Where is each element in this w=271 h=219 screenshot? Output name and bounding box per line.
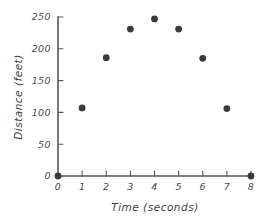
x-tick-label: 5 <box>175 181 181 192</box>
data-points <box>55 16 255 180</box>
data-point <box>127 26 134 33</box>
y-tick-label: 150 <box>32 75 51 86</box>
data-point <box>175 26 182 33</box>
y-axis-tick-labels: 050100150200250 <box>32 11 51 181</box>
x-tick-label: 8 <box>248 181 254 192</box>
x-tick-label: 3 <box>127 181 133 192</box>
data-point <box>248 173 255 180</box>
data-point <box>79 105 86 112</box>
x-tick-label: 4 <box>151 181 157 192</box>
x-tick-label: 0 <box>55 181 61 192</box>
y-tick-label: 250 <box>32 11 51 22</box>
x-tick-label: 1 <box>79 181 85 192</box>
y-tick-label: 200 <box>32 43 51 54</box>
y-tick-label: 100 <box>32 107 51 118</box>
data-point <box>103 54 110 61</box>
x-axis-title: Time (seconds) <box>111 201 198 213</box>
data-point <box>223 105 230 112</box>
plot-canvas: 050100150200250 012345678 Time (seconds)… <box>0 0 271 219</box>
data-point <box>55 173 62 180</box>
y-tick-label: 50 <box>38 139 51 150</box>
x-tick-label: 2 <box>103 181 109 192</box>
scatter-plot-figure: 050100150200250 012345678 Time (seconds)… <box>0 0 271 219</box>
x-axis-tick-labels: 012345678 <box>55 181 254 192</box>
axes <box>58 17 251 176</box>
y-tick-label: 0 <box>45 170 51 181</box>
x-tick-label: 7 <box>224 181 230 192</box>
x-tick-label: 6 <box>200 181 206 192</box>
data-point <box>199 55 206 62</box>
y-axis-title: Distance (feet) <box>12 54 24 140</box>
data-point <box>151 16 158 23</box>
